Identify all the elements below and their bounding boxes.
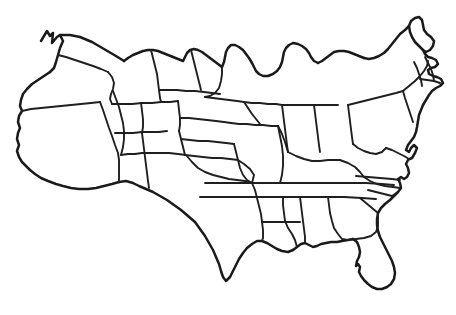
map-canvas: [0, 0, 456, 315]
us-outline-map-figure: [0, 0, 456, 315]
